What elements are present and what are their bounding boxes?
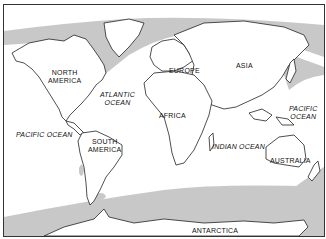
label-antarctica: ANTARCTICA <box>192 227 238 235</box>
label-pacific-ocean-east: PACIFIC OCEAN <box>289 105 318 121</box>
label-north-america: NORTH AMERICA <box>48 69 81 85</box>
label-indian-ocean: INDIAN OCEAN <box>212 143 265 151</box>
label-asia: ASIA <box>236 62 253 70</box>
map-frame: NORTH AMERICA ATLANTIC OCEAN PACIFIC OCE… <box>3 4 325 237</box>
label-south-america: SOUTH AMERICA <box>88 138 121 154</box>
world-map-graphic <box>4 5 324 236</box>
label-europe: EUROPE <box>169 67 200 75</box>
label-atlantic-ocean: ATLANTIC OCEAN <box>100 91 135 107</box>
label-africa: AFRICA <box>159 112 186 120</box>
land-se-asia <box>249 109 272 121</box>
label-pacific-ocean-west: PACIFIC OCEAN <box>16 131 73 139</box>
label-australia: AUSTRALIA <box>270 157 311 165</box>
